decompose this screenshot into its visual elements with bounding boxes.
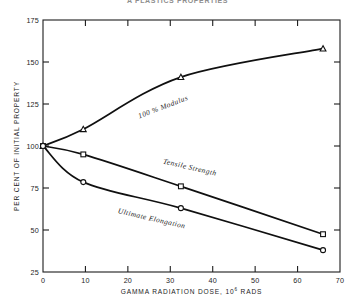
data-point-circle [41,144,46,149]
x-tick-label: 60 [293,276,301,285]
plot-frame [43,20,340,272]
chart-figure: A PLASTICS PROPERTIES 255075100125150175… [0,0,355,304]
data-point-triangle [80,126,86,131]
x-tick-label: 10 [81,276,89,285]
x-tick-label: 50 [251,276,259,285]
chart-svg: 255075100125150175010203040506070GAMMA R… [0,0,355,304]
y-axis-title: PER CENT OF INITIAL PROPERTY [13,81,20,211]
x-tick-label: 0 [41,276,45,285]
data-point-circle [178,206,183,211]
x-tick-label: 40 [209,276,217,285]
y-tick-label: 150 [26,58,39,67]
data-point-circle [81,180,86,185]
x-tick-label: 70 [336,276,344,285]
y-tick-label: 25 [31,268,39,277]
data-point-square [321,232,326,237]
y-tick-label: 75 [31,184,39,193]
data-point-square [178,184,183,189]
y-tick-label: 100 [26,142,39,151]
x-tick-label: 20 [124,276,132,285]
data-point-circle [321,248,326,253]
series-label-1: Tensile Strength [162,157,217,178]
y-tick-label: 125 [26,100,39,109]
x-tick-label: 30 [166,276,174,285]
data-point-triangle [320,46,326,51]
y-tick-label: 175 [26,16,39,25]
data-point-square [81,152,86,157]
y-tick-label: 50 [31,226,39,235]
series-label-2: Ultimate Elongation [117,206,186,230]
data-point-triangle [178,74,184,79]
page-title-strip: A PLASTICS PROPERTIES [0,0,355,5]
series-label-0: 100 % Modulus [137,93,189,120]
x-axis-title: GAMMA RADIATION DOSE, 106 RADS [121,287,263,295]
